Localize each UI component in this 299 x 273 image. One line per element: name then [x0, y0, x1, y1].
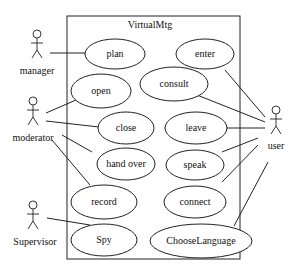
actor-label: user — [268, 140, 285, 151]
actor-manager[interactable]: manager — [20, 30, 55, 76]
use-case-chooselanguage[interactable]: ChooseLanguage — [150, 224, 252, 258]
use-case-hand-over[interactable]: hand over — [97, 148, 155, 180]
use-case-enter[interactable]: enter — [176, 39, 234, 69]
use-case-spy[interactable]: Spy — [71, 224, 137, 256]
svg-text:connect: connect — [179, 196, 210, 207]
actor-moderator[interactable]: moderator — [12, 97, 54, 143]
svg-text:consult: consult — [160, 78, 189, 89]
use-case-diagram: VirtualMtg plan enter open consult — [0, 0, 299, 273]
assoc-supervisor-spy — [47, 218, 90, 225]
use-case-plan[interactable]: plan — [85, 39, 145, 69]
svg-text:close: close — [116, 122, 137, 133]
use-case-speak[interactable]: speak — [166, 150, 224, 180]
assoc-moderator-close — [46, 121, 99, 127]
svg-text:open: open — [91, 85, 110, 96]
assoc-moderator-open — [46, 100, 76, 113]
stick-figure-icon — [27, 97, 39, 125]
system-name: VirtualMtg — [128, 19, 172, 30]
svg-text:ChooseLanguage: ChooseLanguage — [166, 235, 236, 246]
actor-label: manager — [20, 65, 55, 76]
use-case-record[interactable]: record — [71, 185, 137, 219]
actor-label: moderator — [12, 132, 54, 143]
use-case-consult[interactable]: consult — [140, 67, 208, 101]
use-case-connect[interactable]: connect — [164, 186, 226, 218]
svg-text:record: record — [91, 196, 117, 207]
actor-label: Supervisor — [13, 236, 57, 247]
svg-text:leave: leave — [185, 122, 207, 133]
use-case-open[interactable]: open — [71, 74, 131, 108]
use-case-leave[interactable]: leave — [165, 112, 227, 144]
assoc-user-chooselanguage — [234, 162, 268, 226]
assoc-moderator-record — [52, 140, 90, 185]
stick-figure-icon — [31, 30, 43, 58]
actor-user[interactable]: user — [268, 106, 285, 151]
svg-text:plan: plan — [106, 48, 123, 59]
assoc-user-enter — [225, 70, 265, 117]
use-case-close[interactable]: close — [98, 112, 154, 144]
actor-supervisor[interactable]: Supervisor — [13, 201, 57, 247]
svg-text:Spy: Spy — [96, 234, 112, 245]
stick-figure-icon — [270, 106, 282, 134]
svg-text:speak: speak — [184, 159, 207, 170]
svg-text:enter: enter — [195, 48, 216, 59]
stick-figure-icon — [27, 201, 39, 229]
svg-text:hand over: hand over — [106, 158, 146, 169]
